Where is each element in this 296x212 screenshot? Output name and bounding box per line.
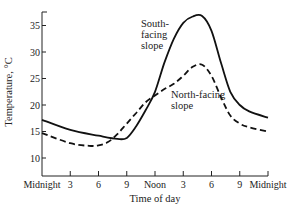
y-tick-label: 15 [30,126,40,137]
x-tick-label: 3 [68,179,73,190]
y-tick-label: 20 [30,100,40,111]
x-tick-label: Midnight [249,179,286,190]
temperature-chart: 101520253035 Midnight369Noon369Midnight … [0,0,296,212]
south-facing-label: South- facing slope [141,18,172,51]
x-tick-label: 6 [209,179,214,190]
x-tick-label: Midnight [23,179,60,190]
x-tick-label: 3 [181,179,186,190]
x-tick-label: Noon [144,179,166,190]
y-axis-title: Temperature, °C [3,57,14,126]
x-tick-label: 6 [96,179,101,190]
x-tick-label: 9 [124,179,129,190]
x-axis-title: Time of day [130,193,182,204]
y-tick-label: 10 [30,153,40,164]
north-facing-label: North-facing slope [171,89,228,111]
x-axis: Midnight369Noon369Midnight [23,171,286,190]
north-facing-slope-line [42,64,268,146]
x-tick-label: 9 [237,179,242,190]
y-tick-label: 25 [30,73,40,84]
y-tick-label: 35 [30,20,40,31]
y-axis: 101520253035 [30,12,47,176]
y-tick-label: 30 [30,47,40,58]
